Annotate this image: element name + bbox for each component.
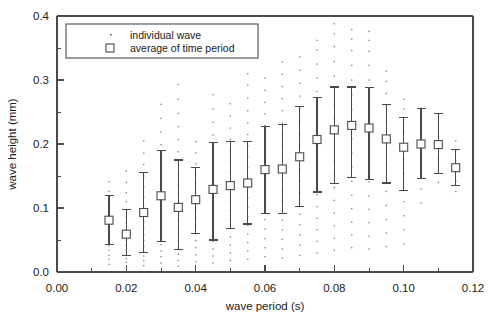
individual-wave-point <box>351 29 352 30</box>
average-marker <box>122 230 130 238</box>
individual-wave-point <box>282 110 283 111</box>
individual-wave-point <box>316 49 317 50</box>
individual-wave-point <box>403 229 404 230</box>
individual-wave-point <box>403 99 404 100</box>
wave-height-vs-period-figure: 0.000.020.040.060.080.100.12wave period … <box>0 0 498 326</box>
individual-wave-point <box>143 140 144 141</box>
individual-wave-point <box>212 255 213 256</box>
errorbar-point <box>191 168 200 234</box>
individual-wave-point <box>195 152 196 153</box>
individual-wave-point <box>126 266 127 267</box>
individual-wave-point <box>212 108 213 109</box>
individual-wave-point <box>160 131 161 132</box>
individual-wave-point <box>126 182 127 183</box>
individual-wave-point <box>247 85 248 86</box>
individual-wave-point <box>160 262 161 263</box>
individual-wave-point <box>230 252 231 253</box>
individual-wave-point <box>403 201 404 202</box>
individual-wave-point <box>247 242 248 243</box>
individual-wave-point <box>351 208 352 209</box>
errorbar-point <box>417 109 426 179</box>
individual-wave-point <box>368 65 369 66</box>
individual-wave-point <box>247 97 248 98</box>
individual-wave-point <box>264 90 265 91</box>
individual-wave-point <box>195 261 196 262</box>
individual-wave-point <box>368 79 369 80</box>
average-marker <box>400 143 408 151</box>
individual-wave-point <box>316 91 317 92</box>
individual-wave-point <box>316 241 317 242</box>
individual-wave-point <box>264 219 265 220</box>
individual-wave-point <box>160 104 161 105</box>
individual-wave-point <box>230 103 231 104</box>
average-marker <box>330 126 338 134</box>
individual-wave-point <box>386 246 387 247</box>
x-tick-label: 0.00 <box>46 282 68 294</box>
individual-wave-point <box>160 244 161 245</box>
individual-wave-point <box>351 181 352 182</box>
individual-wave-point <box>230 236 231 237</box>
individual-wave-point <box>108 250 109 251</box>
individual-wave-point <box>316 40 317 41</box>
individual-wave-point <box>212 94 213 95</box>
individual-wave-point <box>334 213 335 214</box>
individual-wave-point <box>247 122 248 123</box>
errorbar-point <box>399 117 408 190</box>
individual-wave-point <box>126 201 127 202</box>
individual-wave-point <box>455 191 456 192</box>
individual-wave-point <box>212 248 213 249</box>
individual-wave-point <box>403 243 404 244</box>
individual-wave-point <box>195 254 196 255</box>
individual-wave-point <box>299 95 300 96</box>
individual-wave-point <box>247 73 248 74</box>
individual-wave-point <box>334 33 335 34</box>
individual-wave-point <box>247 250 248 251</box>
y-tick-label: 0.3 <box>33 74 49 86</box>
errorbar-point <box>105 195 114 244</box>
individual-wave-point <box>299 224 300 225</box>
individual-wave-point <box>108 264 109 265</box>
individual-wave-point <box>316 63 317 64</box>
errorbar-point <box>313 97 322 192</box>
individual-wave-point <box>247 110 248 111</box>
individual-wave-point <box>334 200 335 201</box>
individual-wave-point <box>299 255 300 256</box>
individual-wave-point <box>316 229 317 230</box>
individual-wave-point <box>178 113 179 114</box>
individual-wave-point <box>334 225 335 226</box>
legend-label-average: average of time period <box>130 42 235 54</box>
individual-wave-point <box>178 260 179 261</box>
individual-wave-point <box>368 31 369 32</box>
individual-wave-point <box>178 99 179 100</box>
individual-wave-point <box>126 258 127 259</box>
errorbar-point <box>295 107 304 206</box>
individual-wave-point <box>438 182 439 183</box>
chart-canvas: 0.000.020.040.060.080.100.12wave period … <box>0 0 498 326</box>
errorbar-point <box>174 160 183 250</box>
individual-wave-point <box>386 232 387 233</box>
individual-wave-point <box>282 122 283 123</box>
errorbar-point <box>122 210 131 255</box>
average-marker <box>140 209 148 217</box>
individual-wave-point <box>143 152 144 153</box>
individual-wave-point <box>282 98 283 99</box>
individual-wave-point <box>160 250 161 251</box>
individual-wave-point <box>108 191 109 192</box>
individual-wave-point <box>299 234 300 235</box>
individual-wave-point <box>334 46 335 47</box>
errorbar-point <box>330 87 339 184</box>
individual-wave-point <box>368 195 369 196</box>
x-tick-label: 0.02 <box>115 282 137 294</box>
average-marker <box>296 153 304 161</box>
average-marker <box>261 166 269 174</box>
individual-wave-point <box>351 247 352 248</box>
individual-wave-point <box>264 256 265 257</box>
individual-wave-point <box>264 238 265 239</box>
individual-wave-point <box>299 56 300 57</box>
individual-wave-point <box>368 51 369 52</box>
individual-wave-point <box>212 122 213 123</box>
individual-wave-point <box>334 76 335 77</box>
x-axis <box>57 265 473 272</box>
individual-wave-point <box>247 259 248 260</box>
y-axis-label: wave height (mm) <box>6 98 18 191</box>
